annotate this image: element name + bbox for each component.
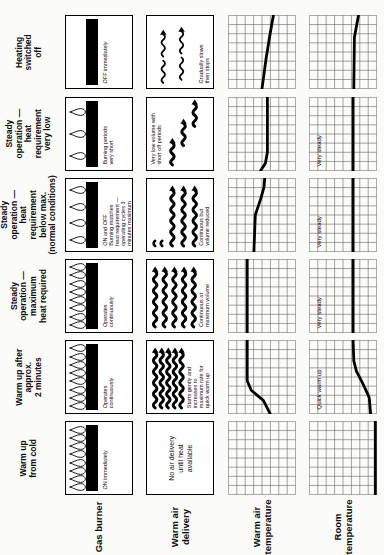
gas-burner-caption: Operates continuously bbox=[102, 342, 114, 408]
flame-row bbox=[69, 425, 86, 491]
burner-bar-icon bbox=[86, 19, 98, 85]
phase-column-title: Heating switched off bbox=[0, 12, 58, 93]
flame-icon bbox=[69, 386, 86, 394]
flame-icon bbox=[69, 219, 86, 227]
flame-icon bbox=[69, 344, 86, 352]
chart-annotation: Very steady bbox=[316, 297, 322, 328]
flame-icon bbox=[69, 296, 86, 304]
warm-air-temperature-chart bbox=[228, 15, 296, 89]
row-label-warm-air-delivery: Warm air delivery bbox=[140, 499, 222, 555]
airflow-arrowhead-icon bbox=[191, 267, 197, 272]
chart-grid bbox=[228, 97, 295, 170]
phase-column-title: Steady operation — heat requirement belo… bbox=[0, 174, 58, 255]
chart-annotation: Quick warm up bbox=[316, 369, 322, 410]
warm-air-delivery-box: Continuous but volume reduced bbox=[146, 178, 214, 252]
airflow-wave-icon bbox=[160, 352, 163, 408]
airflow-arrowhead-icon bbox=[152, 348, 158, 353]
airflow-wave-icon bbox=[162, 35, 165, 57]
flame-icon bbox=[69, 369, 86, 377]
chart-canvas bbox=[309, 421, 377, 495]
airflow-arrowhead-icon bbox=[159, 348, 165, 353]
burner-bar-icon bbox=[86, 182, 98, 248]
airflow-arrowhead-icon bbox=[169, 138, 175, 143]
row-label-room-temperature: Room temperature bbox=[303, 499, 384, 555]
chart-grid bbox=[310, 422, 377, 495]
chart-canvas: Very steady bbox=[309, 259, 377, 333]
airflow-arrowhead-icon bbox=[172, 348, 178, 353]
airflow-stub-icon bbox=[161, 241, 163, 246]
flame-icon bbox=[69, 263, 86, 271]
airflow-wave-icon bbox=[173, 271, 176, 327]
airflow-wave-icon bbox=[167, 352, 170, 408]
warm-air-delivery-caption: Very low volume with short off periods bbox=[150, 99, 162, 165]
flame-icon bbox=[69, 353, 86, 361]
chart-canvas bbox=[228, 178, 296, 252]
chart-canvas bbox=[228, 259, 296, 333]
airflow-wave-icon bbox=[182, 190, 185, 246]
chart-grid bbox=[228, 16, 295, 89]
flame-icon bbox=[69, 475, 86, 483]
warm-air-delivery-caption: Continuous at maximum volume bbox=[198, 261, 210, 327]
flame-row bbox=[69, 182, 86, 248]
chart-canvas: Quick warm up bbox=[309, 340, 377, 414]
phase-column-title: Warm up from cold bbox=[0, 418, 58, 499]
chart-canvas: Very steady bbox=[309, 97, 377, 171]
gas-burner-caption: ON and OFF Burning matches heat requirem… bbox=[102, 180, 132, 246]
warm-air-delivery-caption: Starts gently and increases to maximum r… bbox=[186, 342, 210, 408]
warm-air-temperature-chart bbox=[228, 421, 296, 495]
warm-air-delivery-caption: Gradually slows then stops bbox=[198, 17, 210, 83]
airflow-arrowhead-icon bbox=[179, 27, 185, 32]
airflow-wave-icon bbox=[154, 352, 157, 408]
flame-icon bbox=[69, 377, 86, 385]
warm-air-temperature-chart bbox=[228, 97, 296, 171]
gas-burner-box: Operates continuously bbox=[65, 340, 133, 414]
flame-icon bbox=[69, 313, 86, 321]
room-temperature-chart: Very steady bbox=[309, 178, 377, 252]
burner-bar-icon bbox=[86, 263, 98, 329]
airflow-wave-icon bbox=[182, 123, 185, 145]
flame-icon bbox=[69, 203, 86, 211]
chart-grid bbox=[228, 422, 295, 495]
airflow-wave-icon bbox=[183, 271, 186, 327]
airflow-wave-icon bbox=[162, 61, 165, 83]
phase-column-title: Steady operation — maximum heat required bbox=[0, 255, 58, 336]
burner-bar-icon bbox=[86, 425, 98, 491]
airflow-wave-icon bbox=[193, 104, 196, 126]
chart-canvas bbox=[228, 421, 296, 495]
flame-icon bbox=[69, 186, 86, 194]
flame-icon bbox=[69, 236, 86, 244]
airflow-arrowhead-icon bbox=[160, 30, 166, 35]
flame-row bbox=[69, 344, 86, 410]
flame-icon bbox=[69, 130, 86, 138]
airflow-arrowhead-icon bbox=[181, 118, 187, 123]
airflow-arrowhead-icon bbox=[169, 185, 175, 190]
airflow-arrowhead-icon bbox=[181, 185, 187, 190]
flame-icon bbox=[69, 402, 86, 410]
airflow-arrowhead-icon bbox=[171, 267, 177, 272]
diagram-sheet: Warm up from coldWarm up after approx. 2… bbox=[0, 0, 384, 555]
flame-icon bbox=[69, 304, 86, 312]
chart-grid bbox=[228, 341, 295, 414]
flame-icon bbox=[69, 459, 86, 467]
chart-canvas: Very steady bbox=[309, 178, 377, 252]
phase-column-title: Steady operation — heat requirement very… bbox=[0, 93, 58, 174]
warm-air-delivery-box: Gradually slows then stops bbox=[146, 15, 214, 89]
flame-row bbox=[69, 19, 86, 85]
flame-icon bbox=[69, 321, 86, 329]
flame-icon bbox=[69, 271, 86, 279]
chart-canvas bbox=[228, 15, 296, 89]
row-label-warm-air-temperature: Warm air temperature bbox=[221, 499, 303, 555]
airflow-wave-icon bbox=[180, 352, 183, 408]
gas-burner-caption: ON immediately bbox=[102, 423, 108, 489]
flame-icon bbox=[69, 288, 86, 296]
no-air-delivery-message: No air delivery until heat available bbox=[147, 422, 213, 494]
flame-icon bbox=[69, 426, 86, 434]
airflow-arrowhead-icon bbox=[179, 348, 185, 353]
room-temperature-chart bbox=[309, 15, 377, 89]
room-temperature-chart: Quick warm up bbox=[309, 340, 377, 414]
flame-icon bbox=[69, 108, 86, 116]
flame-icon bbox=[69, 442, 86, 450]
airflow-wave-icon bbox=[193, 190, 196, 246]
row-label-gas-burner: Gas burner bbox=[58, 499, 140, 555]
airflow-wave-icon bbox=[180, 58, 183, 80]
